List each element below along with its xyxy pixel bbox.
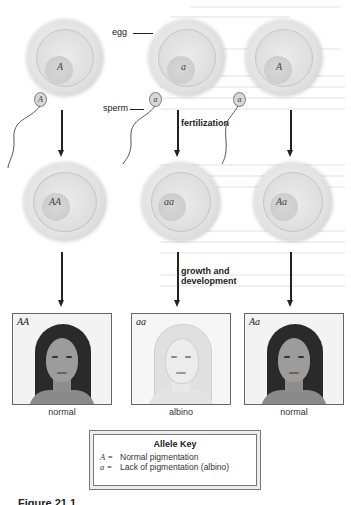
egg-allele: a bbox=[181, 61, 186, 72]
arrow-growth bbox=[177, 252, 179, 300]
sperm-tail-icon bbox=[220, 100, 270, 170]
portrait-albino-aa: aa bbox=[131, 313, 231, 405]
fertilization-label: fertilization bbox=[181, 118, 229, 128]
egg-allele: A bbox=[57, 61, 63, 72]
arrow-fertilization bbox=[290, 110, 292, 150]
figure-caption: Figure 21.1 bbox=[18, 497, 76, 505]
zygote-cell: Aa bbox=[254, 163, 332, 241]
portrait-normal-aa-het: Aa bbox=[244, 313, 344, 405]
column-aa-homozygous-dominant: A A AA AA normal bbox=[0, 0, 117, 480]
sperm-tail-icon bbox=[0, 100, 50, 170]
egg-allele: A bbox=[276, 61, 282, 72]
arrow-fertilization bbox=[177, 110, 179, 150]
growth-label-line2: development bbox=[181, 276, 237, 286]
arrowhead-icon bbox=[287, 300, 293, 307]
arrow-fertilization bbox=[61, 110, 63, 150]
arrow-growth bbox=[61, 252, 63, 300]
arrow-growth bbox=[290, 252, 292, 300]
column-aa-homozygous-recessive: a a aa aa albino bbox=[117, 0, 234, 480]
growth-label-line1: growth and bbox=[181, 266, 237, 276]
allele-key-title: Allele Key bbox=[100, 439, 250, 449]
portrait-normal-aa: AA bbox=[12, 313, 112, 405]
zygote-cell: AA bbox=[24, 163, 106, 241]
arrowhead-icon bbox=[174, 300, 180, 307]
egg-label: egg bbox=[112, 27, 127, 37]
allele-key-entry: A =Normal pigmentation bbox=[100, 452, 250, 462]
allele-key-box: Allele Key A =Normal pigmentation a =Lac… bbox=[89, 430, 261, 490]
egg-cell: A bbox=[246, 20, 322, 96]
allele-key-entry: a =Lack of pigmentation (albino) bbox=[100, 462, 250, 472]
allele-symbol: a = bbox=[100, 462, 120, 472]
sperm-leader-line bbox=[130, 109, 144, 110]
allele-meaning: Lack of pigmentation (albino) bbox=[120, 462, 229, 472]
allele-meaning: Normal pigmentation bbox=[120, 452, 198, 462]
portrait-genotype: AA bbox=[17, 316, 29, 327]
column-aa-heterozygous: A a Aa Aa normal bbox=[234, 0, 351, 480]
zygote-cell: aa bbox=[142, 163, 220, 241]
sperm-label: sperm bbox=[103, 103, 128, 113]
phenotype-label: normal bbox=[12, 407, 112, 417]
arrowhead-icon bbox=[287, 150, 293, 157]
egg-leader-line bbox=[133, 33, 153, 34]
egg-cell: a bbox=[149, 20, 225, 96]
zygote-genotype: Aa bbox=[276, 196, 287, 207]
phenotype-label: normal bbox=[244, 407, 344, 417]
arrowhead-icon bbox=[58, 300, 64, 307]
portrait-genotype: Aa bbox=[249, 316, 260, 327]
zygote-genotype: AA bbox=[49, 196, 61, 207]
allele-symbol: A = bbox=[100, 452, 120, 462]
growth-label: growth and development bbox=[181, 266, 237, 286]
arrowhead-icon bbox=[174, 150, 180, 157]
zygote-genotype: aa bbox=[164, 196, 174, 207]
egg-cell: A bbox=[27, 20, 103, 96]
portrait-genotype: aa bbox=[136, 316, 146, 327]
phenotype-label: albino bbox=[131, 407, 231, 417]
arrowhead-icon bbox=[58, 150, 64, 157]
